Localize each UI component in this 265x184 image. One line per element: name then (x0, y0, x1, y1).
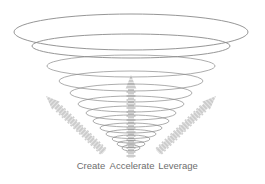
label-leverage: Leverage (158, 160, 198, 171)
arrows-group (42, 75, 220, 158)
label-create: Create (77, 160, 106, 171)
funnel-ring (32, 34, 230, 58)
funnel-ring (14, 14, 248, 50)
label-accelerate: Accelerate (110, 160, 155, 171)
vortex-funnel-diagram (0, 0, 265, 184)
